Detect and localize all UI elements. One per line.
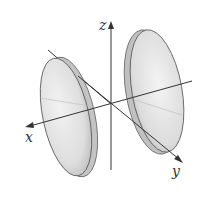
left-sheet <box>31 52 107 181</box>
hyperboloid-diagram: z x y <box>0 0 198 197</box>
x-axis-label: x <box>25 129 33 145</box>
x-axis-arrow-icon <box>25 122 34 128</box>
y-axis-label: y <box>171 163 181 179</box>
z-axis-arrow-icon <box>108 21 114 29</box>
hyperboloid-figure: z x y <box>0 0 198 197</box>
z-axis-label: z <box>98 17 107 33</box>
